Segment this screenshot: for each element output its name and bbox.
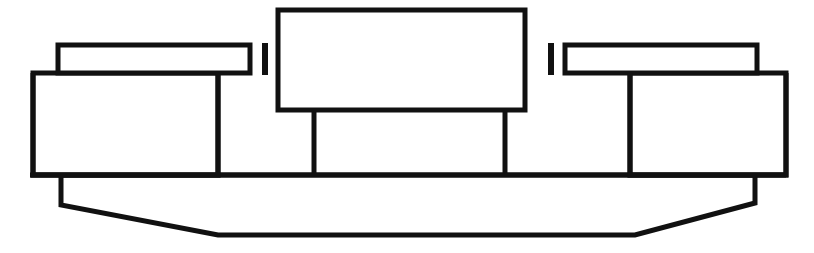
- right-upper-bar: [565, 45, 757, 73]
- left-tick-mark-icon: [262, 43, 268, 75]
- lower-tapered-body: [61, 175, 755, 235]
- center-block: [278, 10, 525, 110]
- technical-line-drawing: [0, 0, 814, 253]
- left-lower-block: [33, 73, 218, 175]
- right-lower-block: [630, 73, 786, 175]
- right-tick-mark-icon: [548, 43, 554, 75]
- left-upper-bar: [58, 45, 250, 73]
- drawing-canvas: [0, 0, 814, 253]
